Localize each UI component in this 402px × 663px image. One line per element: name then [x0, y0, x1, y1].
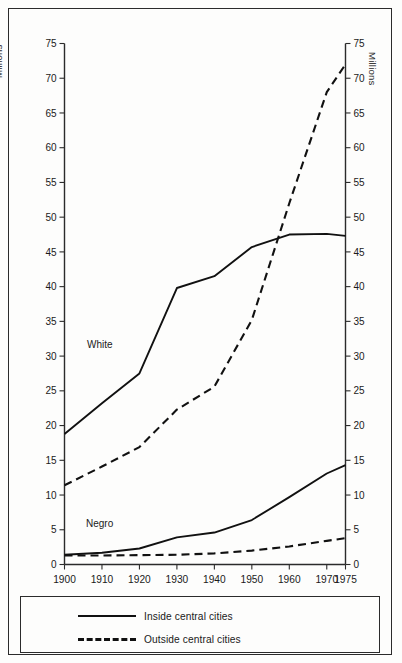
- svg-text:25: 25: [45, 385, 57, 396]
- legend-swatch-solid-icon: [78, 615, 136, 617]
- svg-text:50: 50: [354, 212, 366, 223]
- svg-text:55: 55: [354, 177, 366, 188]
- svg-text:20: 20: [45, 420, 57, 431]
- svg-text:10: 10: [45, 490, 57, 501]
- svg-text:15: 15: [45, 455, 57, 466]
- svg-text:1960: 1960: [278, 574, 301, 585]
- svg-text:60: 60: [354, 142, 366, 153]
- svg-text:1950: 1950: [240, 574, 263, 585]
- svg-text:70: 70: [354, 73, 366, 84]
- svg-text:25: 25: [354, 385, 366, 396]
- svg-text:65: 65: [45, 108, 57, 119]
- series-line: [65, 465, 346, 555]
- legend: Inside central cities Outside central ci…: [20, 596, 380, 653]
- svg-text:10: 10: [354, 490, 366, 501]
- svg-text:1930: 1930: [166, 574, 189, 585]
- svg-text:1920: 1920: [128, 574, 151, 585]
- figure-root: 0055101015152020252530303535404045455050…: [0, 0, 402, 663]
- svg-text:40: 40: [354, 281, 366, 292]
- series-group-label-negro: Negro: [86, 518, 113, 529]
- svg-text:0: 0: [51, 559, 57, 570]
- series-line: [65, 64, 346, 485]
- svg-text:5: 5: [51, 524, 57, 535]
- svg-text:1940: 1940: [203, 574, 226, 585]
- right-axis-title: Millions: [367, 52, 378, 86]
- svg-text:5: 5: [354, 524, 360, 535]
- svg-text:1975: 1975: [334, 574, 357, 585]
- svg-text:35: 35: [45, 316, 57, 327]
- svg-text:0: 0: [354, 559, 360, 570]
- svg-text:55: 55: [45, 177, 57, 188]
- svg-text:20: 20: [354, 420, 366, 431]
- svg-text:1910: 1910: [91, 574, 114, 585]
- svg-text:65: 65: [354, 108, 366, 119]
- svg-text:75: 75: [45, 38, 57, 49]
- svg-text:45: 45: [354, 247, 366, 258]
- svg-text:30: 30: [45, 351, 57, 362]
- svg-text:35: 35: [354, 316, 366, 327]
- legend-label-inside: Inside central cities: [144, 611, 233, 622]
- svg-text:15: 15: [354, 455, 366, 466]
- series-group-label-white: White: [87, 339, 113, 350]
- svg-text:60: 60: [45, 142, 57, 153]
- legend-item-outside: Outside central cities: [21, 630, 241, 648]
- svg-text:70: 70: [45, 73, 57, 84]
- series-line: [65, 234, 346, 434]
- svg-text:45: 45: [45, 247, 57, 258]
- svg-text:50: 50: [45, 212, 57, 223]
- svg-text:75: 75: [354, 38, 366, 49]
- legend-item-inside: Inside central cities: [21, 607, 233, 625]
- plot-area: 0055101015152020252530303535404045455050…: [0, 0, 402, 595]
- legend-swatch-dashed-icon: [78, 638, 136, 641]
- line-chart-svg: 0055101015152020252530303535404045455050…: [0, 0, 402, 595]
- svg-text:1900: 1900: [53, 574, 76, 585]
- svg-text:40: 40: [45, 281, 57, 292]
- svg-text:30: 30: [354, 351, 366, 362]
- left-axis-title: Millions: [0, 44, 4, 78]
- legend-label-outside: Outside central cities: [144, 634, 241, 645]
